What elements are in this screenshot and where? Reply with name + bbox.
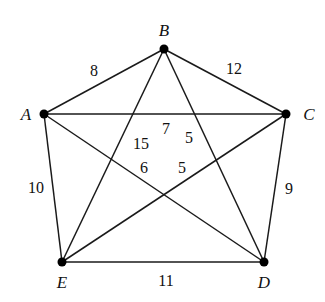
edge-bd (164, 49, 264, 262)
edge-ad (44, 114, 264, 262)
node-label-d: D (257, 273, 271, 292)
edge-weight-bc: 12 (226, 60, 242, 77)
edge-weight-ed: 11 (158, 272, 173, 289)
node-label-b: B (159, 21, 170, 40)
node-b (160, 45, 169, 54)
edge-cd (264, 114, 286, 262)
edge-weight-be: 15 (133, 135, 149, 152)
edge-weight-ab: 8 (90, 62, 98, 79)
node-c (282, 110, 291, 119)
node-label-c: C (303, 105, 315, 124)
node-label-a: A (20, 105, 32, 124)
edge-weight-ad: 6 (140, 159, 148, 176)
edge-ce (62, 114, 286, 262)
edge-weight-cd: 9 (285, 180, 293, 197)
node-d (260, 258, 269, 267)
edge-weight-ac: 7 (162, 120, 170, 137)
graph-canvas: 81271556510911 ABCDE (0, 0, 325, 302)
edge-ab (44, 49, 164, 114)
node-label-e: E (56, 273, 68, 292)
edge-weight-bd: 5 (185, 129, 193, 146)
node-labels-layer: ABCDE (20, 21, 316, 292)
nodes-layer (40, 45, 291, 267)
edge-bc (164, 49, 286, 114)
edges-layer (44, 49, 286, 262)
edge-be (62, 49, 164, 262)
node-e (58, 258, 67, 267)
edge-weight-ae: 10 (28, 179, 44, 196)
edge-ae (44, 114, 62, 262)
node-a (40, 110, 49, 119)
edge-weight-ce: 5 (178, 159, 186, 176)
